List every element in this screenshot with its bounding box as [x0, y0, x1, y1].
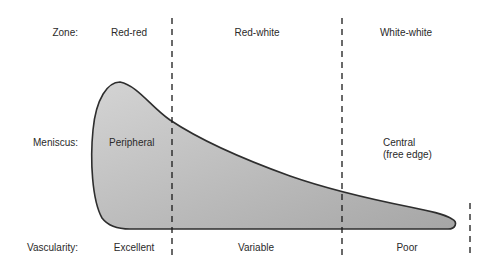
meniscus-central-label: Central	[383, 137, 415, 149]
zone-red-red-label: Red-red	[111, 27, 147, 39]
meniscus-diagram	[0, 0, 490, 272]
meniscus-row-label: Meniscus:	[10, 137, 78, 149]
zone-row-label: Zone:	[20, 27, 78, 39]
meniscus-peripheral-label: Peripheral	[109, 137, 155, 149]
zone-red-white-label: Red-white	[234, 27, 279, 39]
vascularity-variable-label: Variable	[238, 242, 274, 254]
vascularity-poor-label: Poor	[396, 242, 417, 254]
zone-white-white-label: White-white	[380, 27, 432, 39]
vascularity-excellent-label: Excellent	[114, 242, 155, 254]
vascularity-row-label: Vascularity:	[10, 242, 78, 254]
meniscus-free-edge-label: (free edge)	[383, 149, 432, 161]
